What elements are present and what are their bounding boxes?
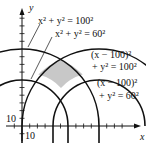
equation-c4-line1: (x − 100)² — [97, 77, 137, 89]
x-axis-label: x — [139, 131, 145, 142]
x-tick-label: 10 — [25, 130, 35, 141]
y-axis-arrow-icon — [20, 8, 25, 15]
equation-c3-line1: (x − 100)² — [91, 49, 131, 61]
leader-line-c1 — [28, 24, 40, 47]
y-axis-label: y — [28, 2, 34, 13]
equation-c1: x² + y² = 100² — [38, 15, 93, 26]
y-tick-label: 10 — [6, 113, 16, 124]
equation-c2: x² + y² = 60² — [55, 28, 105, 39]
circle-r100-origin — [0, 49, 99, 143]
x-axis-arrow-icon — [134, 124, 141, 129]
shaded-region — [38, 59, 82, 88]
equation-c4-line2: + y² = 60² — [99, 90, 139, 101]
diagram-canvas: y x 10 10 x² + y² = 100² x² + y² = 60² (… — [0, 0, 146, 143]
equation-c3-line2: + y² = 100² — [92, 61, 137, 72]
